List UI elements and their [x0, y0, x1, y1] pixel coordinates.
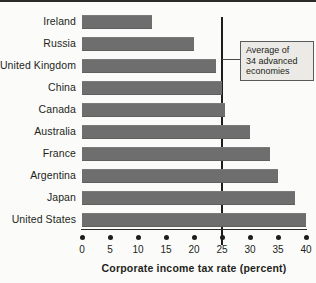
bar — [82, 191, 295, 205]
callout-line-2: 34 advanced — [246, 56, 309, 67]
callout-line-3: economies — [246, 66, 309, 77]
bar — [82, 37, 194, 51]
average-callout-box: Average of 34 advanced economies — [240, 41, 314, 81]
bar-row: Australia — [82, 125, 250, 139]
x-axis-tick-dot — [136, 235, 141, 240]
bar-row: China — [82, 81, 222, 95]
category-label: United Kingdom — [0, 58, 76, 73]
x-axis-rule — [81, 229, 307, 230]
x-axis-tick-label: 20 — [182, 244, 206, 255]
bar — [82, 15, 152, 29]
bar — [82, 81, 222, 95]
bar-row: Japan — [82, 191, 295, 205]
x-axis-tick-dot — [276, 235, 281, 240]
category-label: Japan — [47, 190, 76, 205]
x-axis-tick-label: 30 — [238, 244, 262, 255]
category-label: Australia — [34, 124, 76, 139]
bar-row: Argentina — [82, 169, 278, 183]
x-axis-tick-label: 0 — [70, 244, 94, 255]
bar-row: Ireland — [82, 15, 152, 29]
category-label: France — [43, 146, 76, 161]
x-axis-tick-label: 25 — [210, 244, 234, 255]
bar — [82, 125, 250, 139]
bar — [82, 103, 225, 117]
x-axis-tick-dot — [164, 235, 169, 240]
x-axis-tick-label: 40 — [294, 244, 316, 255]
callout-leader-line — [222, 59, 240, 60]
bar — [82, 59, 216, 73]
x-axis-tick-dot — [192, 235, 197, 240]
bar — [82, 147, 270, 161]
bar-row: Russia — [82, 37, 194, 51]
bar — [82, 213, 306, 227]
category-label: Russia — [43, 36, 76, 51]
category-label: China — [48, 80, 76, 95]
x-axis-title: Corporate income tax rate (percent) — [36, 262, 316, 274]
category-label: Ireland — [43, 14, 76, 29]
x-axis-tick-label: 15 — [154, 244, 178, 255]
bar-chart: Average of 34 advanced economies Corpora… — [0, 0, 316, 283]
callout-line-1: Average of — [246, 45, 309, 56]
plot-area: Average of 34 advanced economies Corpora… — [0, 0, 316, 283]
bar-row: United States — [82, 213, 306, 227]
category-label: United States — [12, 212, 76, 227]
x-axis-tick-dot — [80, 235, 85, 240]
x-axis-tick-dot — [220, 235, 225, 240]
bar-row: France — [82, 147, 270, 161]
x-axis-tick-dot — [108, 235, 113, 240]
category-label: Canada — [39, 102, 76, 117]
bar-row: United Kingdom — [82, 59, 216, 73]
x-axis-tick-label: 35 — [266, 244, 290, 255]
category-label: Argentina — [30, 168, 76, 183]
x-axis-tick-dot — [248, 235, 253, 240]
x-axis-tick-label: 10 — [126, 244, 150, 255]
x-axis-tick-dot — [304, 235, 309, 240]
x-axis-tick-label: 5 — [98, 244, 122, 255]
bar-row: Canada — [82, 103, 225, 117]
bar — [82, 169, 278, 183]
